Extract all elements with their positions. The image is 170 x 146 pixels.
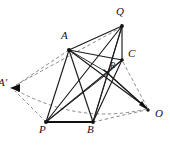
edge-a-q — [69, 26, 122, 50]
dashed-edge-group — [15, 27, 147, 122]
dashed-edge-a-aprime — [15, 50, 69, 86]
dashed-edge-b-o — [93, 110, 146, 122]
vertex-label-p: P — [39, 124, 46, 135]
arrow-edge-r-o — [104, 70, 144, 106]
figure-canvas — [0, 0, 170, 146]
edge-r-p — [46, 73, 108, 122]
edge-c-b — [93, 60, 122, 122]
arrowhead-aprime-icon — [10, 84, 20, 92]
vertex-label-a: A — [61, 30, 68, 41]
vertex-dot-c — [120, 58, 124, 62]
dashed-edge-c-o — [123, 62, 147, 107]
vertex-label-c: C — [128, 48, 135, 59]
edge-a-p — [46, 50, 69, 122]
vertex-label-q: Q — [116, 6, 124, 17]
vertex-label-r: R — [110, 61, 115, 70]
vertex-label-a-prime: A' — [0, 77, 7, 88]
vertex-dot-r — [107, 72, 110, 75]
vertex-dot-q — [120, 24, 124, 28]
geometry-figure: Q A C R P B O A' — [0, 0, 170, 146]
vertex-label-b: B — [87, 124, 94, 135]
dashed-edge-p-aprime — [15, 91, 46, 122]
edge-r-b — [93, 73, 108, 122]
edge-q-p — [46, 26, 122, 122]
vertex-label-o: O — [155, 108, 163, 119]
vertex-dot-o — [146, 108, 149, 111]
vertex-dot-a — [67, 48, 71, 52]
dashed-edge-q-aprime — [16, 27, 122, 85]
